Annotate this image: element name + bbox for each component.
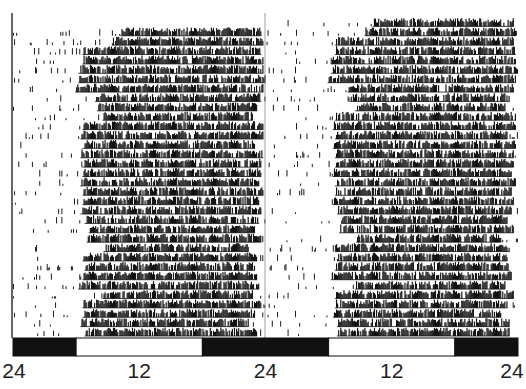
x-tick-label: 12 [128, 359, 151, 383]
dark-period-segment [13, 338, 76, 356]
activity-rows [13, 18, 518, 336]
light-period-segment [76, 338, 202, 356]
light-period-segment [329, 338, 455, 356]
actogram-plot [0, 0, 526, 389]
x-tick-label: 24 [2, 359, 25, 383]
x-tick-label: 12 [380, 359, 403, 383]
x-tick-label: 24 [500, 359, 523, 383]
dark-period-segment [202, 338, 328, 356]
x-tick-label: 24 [254, 359, 277, 383]
light-dark-bar [13, 338, 518, 356]
dark-period-segment [455, 338, 518, 356]
